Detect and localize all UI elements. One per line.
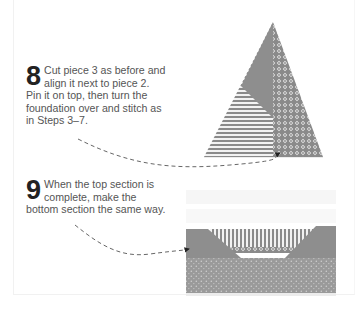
leader-arrow-step-9 [75, 225, 189, 255]
bottom-section-block-illustration [186, 226, 336, 296]
triangle-block-illustration [204, 22, 323, 158]
illustrations [0, 0, 356, 312]
